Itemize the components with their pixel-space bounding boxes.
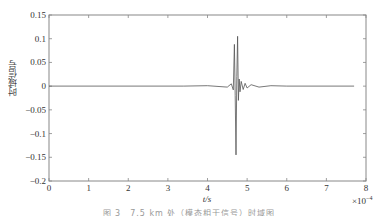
y-tick-label: −0.15 bbox=[25, 152, 46, 162]
x-multiplier: ×10−4 bbox=[352, 195, 372, 206]
figure-caption: 图 3 7.5 km 处（模态相干信号）时域图 bbox=[0, 207, 378, 216]
y-tick-label: 0.15 bbox=[30, 10, 46, 20]
x-tick-label: 4 bbox=[205, 183, 210, 193]
x-tick-label: 0 bbox=[47, 183, 52, 193]
y-tick-label: −0.2 bbox=[30, 176, 46, 186]
x-tick-label: 1 bbox=[86, 183, 91, 193]
x-tick-label: 7 bbox=[324, 183, 329, 193]
x-axis-label: t/s bbox=[203, 194, 212, 204]
x-tick-label: 5 bbox=[245, 183, 250, 193]
x-tick-label: 6 bbox=[285, 183, 290, 193]
plot-area bbox=[49, 15, 366, 181]
x-tick-label: 8 bbox=[364, 183, 369, 193]
y-tick-label: −0.1 bbox=[30, 129, 46, 139]
y-tick-label: 0.05 bbox=[30, 57, 46, 67]
x-tick-label: 2 bbox=[126, 183, 131, 193]
x-tick-label: 3 bbox=[166, 183, 171, 193]
y-tick-label: 0.1 bbox=[35, 34, 46, 44]
y-axis-label: 时域信号 bbox=[6, 60, 18, 96]
y-tick-label: −0.05 bbox=[25, 105, 46, 115]
y-tick-label: 0 bbox=[42, 81, 47, 91]
chart: 0.150.10.050−0.05−0.1−0.15−0.2 012345678… bbox=[0, 0, 378, 216]
